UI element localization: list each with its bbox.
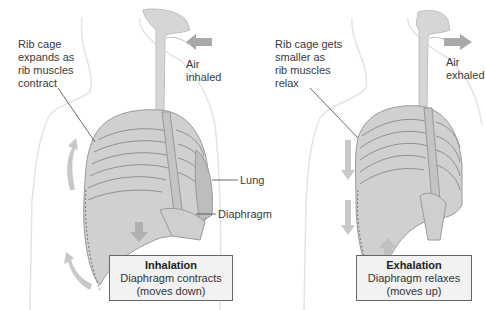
exhalation-desc-line2: (moves up) [361, 285, 467, 298]
inhalation-caption-box: Inhalation Diaphragm contracts (moves do… [109, 255, 233, 301]
lung-label: Lung [240, 174, 264, 187]
exhalation-title: Exhalation [361, 259, 467, 272]
rib-expands-label: Rib cage expands as rib muscles contract [18, 38, 74, 90]
air-exhaled-label: Air exhaled [446, 56, 485, 82]
diaphragm-label: Diaphragm [218, 208, 272, 221]
inhalation-title: Inhalation [114, 259, 228, 272]
exhalation-caption-box: Exhalation Diaphragm relaxes (moves up) [356, 255, 472, 301]
inhalation-desc-line1: Diaphragm contracts [114, 272, 228, 285]
rib-smaller-label: Rib cage gets smaller as rib muscles rel… [275, 38, 342, 90]
exhalation-desc-line1: Diaphragm relaxes [361, 272, 467, 285]
air-inhaled-label: Air inhaled [186, 58, 221, 84]
inhalation-desc-line2: (moves down) [114, 285, 228, 298]
